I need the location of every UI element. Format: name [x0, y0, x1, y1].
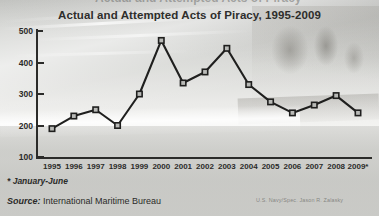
piracy-chart-figure: Actual and Attempted Acts of Piracy Actu…	[0, 0, 379, 216]
data-point-marker	[115, 123, 120, 128]
data-point-marker	[71, 113, 76, 118]
clipped-title-strip: Actual and Attempted Acts of Piracy	[0, 0, 379, 9]
x-tick-label: 2000	[152, 162, 170, 171]
data-point-marker	[290, 110, 295, 115]
x-tick-label: 2007	[305, 162, 323, 171]
clipped-title-text: Actual and Attempted Acts of Piracy	[95, 0, 301, 5]
footnote: * January-June	[7, 176, 68, 186]
plot-area: 100200300400500 199519961997199819992000…	[36, 31, 372, 157]
x-tick-label: 1996	[65, 162, 83, 171]
x-tick-label: 2009*	[348, 162, 369, 171]
data-point-marker	[224, 46, 229, 51]
x-axis-line	[36, 157, 372, 159]
source-line: Source: International Maritime Bureau	[7, 196, 161, 206]
x-tick-label: 1995	[43, 162, 61, 171]
x-tick-label: 2008	[327, 162, 345, 171]
x-tick-label: 1998	[109, 162, 127, 171]
x-tick-label: 2006	[284, 162, 302, 171]
data-point-marker	[268, 99, 273, 104]
data-point-marker	[180, 80, 185, 85]
x-tick-label: 2005	[262, 162, 280, 171]
x-tick-label: 2003	[218, 162, 236, 171]
photo-credit: U.S. Navy/Spec. Jason R. Zalasky	[256, 197, 343, 203]
piracy-series	[36, 31, 372, 157]
data-point-marker	[246, 82, 251, 87]
x-tick-label: 2001	[174, 162, 192, 171]
data-point-marker	[202, 69, 207, 74]
y-tick-label: 500	[19, 26, 33, 36]
data-point-marker	[93, 107, 98, 112]
x-tick-label: 1997	[87, 162, 105, 171]
x-tick-label: 1999	[131, 162, 149, 171]
data-point-marker	[159, 38, 164, 43]
data-point-marker	[355, 110, 360, 115]
series-line	[52, 40, 358, 128]
source-label: Source:	[7, 196, 41, 206]
data-point-marker	[49, 126, 54, 131]
x-tick-label: 2004	[240, 162, 258, 171]
y-tick-label: 200	[19, 121, 33, 131]
source-value: International Maritime Bureau	[43, 196, 161, 206]
data-point-marker	[137, 91, 142, 96]
page-title: Actual and Attempted Acts of Piracy, 199…	[0, 9, 379, 21]
y-tick-label: 400	[19, 58, 33, 68]
x-tick-label: 2002	[196, 162, 214, 171]
y-tick-label: 100	[19, 152, 33, 162]
data-point-marker	[333, 93, 338, 98]
y-tick-label: 300	[19, 89, 33, 99]
data-point-marker	[312, 102, 317, 107]
